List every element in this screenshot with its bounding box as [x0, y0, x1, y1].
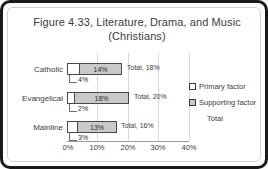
legend-swatch-supporting-icon [189, 99, 196, 106]
total-label-evangelical: Total, 20% [134, 93, 167, 100]
stacked-bar-evangelical[interactable]: 18% [67, 92, 129, 104]
bar-segment-primary-catholic[interactable] [67, 63, 79, 75]
x-tick-label-20: 20% [120, 143, 135, 152]
bar-segment-supporting-mainline[interactable]: 13% [77, 121, 117, 133]
callout-value-evangelical: 2% [78, 105, 88, 112]
legend-label-supporting-factor: Supporting factor [199, 98, 256, 107]
callout-leader-line-mainline [69, 133, 77, 141]
chart-title-line-2: (Christians) [21, 29, 253, 43]
legend-item-total[interactable]: Total [189, 113, 267, 123]
category-label-mainline: Mainline [5, 123, 63, 132]
bar-value-label-catholic: 14% [93, 66, 107, 73]
bar-value-label-evangelical: 18% [94, 95, 108, 102]
legend-swatch-total-icon [197, 115, 204, 122]
stacked-bar-catholic[interactable]: 14% [67, 63, 122, 75]
x-axis-line [67, 141, 189, 142]
legend-label-primary-factor: Primary factor [199, 82, 246, 91]
x-tick-label-40: 40% [181, 143, 196, 152]
callout-value-mainline: 3% [78, 134, 88, 141]
legend-label-total: Total [207, 114, 223, 123]
chart-plot-area: Figure 4.33, Literature, Drama, and Musi… [3, 3, 268, 169]
bar-value-label-mainline: 13% [90, 124, 104, 131]
bar-segment-primary-evangelical[interactable] [67, 92, 74, 104]
legend-swatch-primary-icon [189, 83, 196, 90]
chart-title-line-1: Figure 4.33, Literature, Drama, and Musi… [33, 16, 241, 28]
x-tick-label-10: 10% [89, 143, 104, 152]
total-label-mainline: Total, 16% [121, 122, 154, 129]
bar-segment-supporting-evangelical[interactable]: 18% [74, 92, 129, 104]
x-tick-label-30: 30% [150, 143, 165, 152]
legend-item-primary-factor[interactable]: Primary factor [189, 81, 267, 91]
chart-title: Figure 4.33, Literature, Drama, and Musi… [21, 15, 253, 43]
total-label-catholic: Total, 18% [127, 64, 160, 71]
category-label-evangelical: Evangelical [5, 94, 63, 103]
category-label-catholic: Catholic [5, 65, 63, 74]
bar-segment-supporting-catholic[interactable]: 14% [79, 63, 122, 75]
legend-item-supporting-factor[interactable]: Supporting factor [189, 97, 267, 107]
chart-frame: Figure 4.33, Literature, Drama, and Musi… [0, 0, 268, 169]
callout-value-catholic: 4% [78, 76, 88, 83]
x-tick-label-0: 0% [63, 143, 74, 152]
callout-leader-line-evangelical [69, 104, 77, 112]
chart-legend: Primary factor Supporting factor Total [189, 81, 267, 129]
bar-segment-primary-mainline[interactable] [67, 121, 77, 133]
stacked-bar-mainline[interactable]: 13% [67, 121, 117, 133]
callout-leader-line-catholic [69, 75, 77, 83]
